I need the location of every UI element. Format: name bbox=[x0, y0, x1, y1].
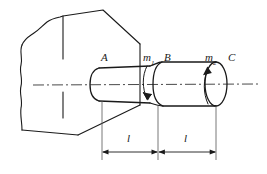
dimension-extension-lines bbox=[102, 101, 216, 160]
label-section-c: C bbox=[228, 52, 235, 63]
label-section-b: B bbox=[164, 52, 171, 63]
dimension-arrow-icon bbox=[102, 150, 216, 155]
label-torque-m2: m2 bbox=[205, 52, 216, 66]
label-dimension-right: l bbox=[184, 133, 187, 144]
torque-arrow-icon bbox=[143, 66, 152, 101]
label-torque-m1-sub: 1 bbox=[151, 59, 155, 67]
torsion-shaft-figure: A m1 B m2 C l l bbox=[0, 0, 267, 174]
centerline-icon bbox=[33, 84, 258, 85]
label-torque-m1: m1 bbox=[143, 52, 154, 66]
label-torque-m2-sub: 2 bbox=[213, 59, 217, 67]
label-torque-m2-base: m bbox=[205, 51, 213, 63]
label-dimension-left: l bbox=[127, 133, 130, 144]
label-torque-m1-base: m bbox=[143, 51, 151, 63]
label-section-a: A bbox=[101, 52, 108, 63]
figure-canvas bbox=[0, 0, 267, 174]
wall-block-icon bbox=[20, 10, 140, 135]
